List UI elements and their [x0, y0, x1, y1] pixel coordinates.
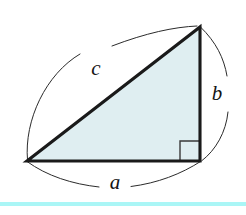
- arc-side-b-lower-segment: [202, 112, 229, 161]
- label-side-c: c: [91, 56, 101, 80]
- geometry-figure: c b a: [0, 0, 246, 215]
- arc-side-b-upper-segment: [201, 27, 228, 76]
- label-side-a: a: [110, 170, 121, 194]
- triangle-diagram-canvas: c b a: [0, 0, 246, 215]
- cyan-divider: [0, 202, 246, 206]
- arc-side-a-right-segment: [131, 162, 201, 187]
- label-side-b: b: [212, 81, 223, 105]
- arc-side-a-left-segment: [27, 162, 99, 188]
